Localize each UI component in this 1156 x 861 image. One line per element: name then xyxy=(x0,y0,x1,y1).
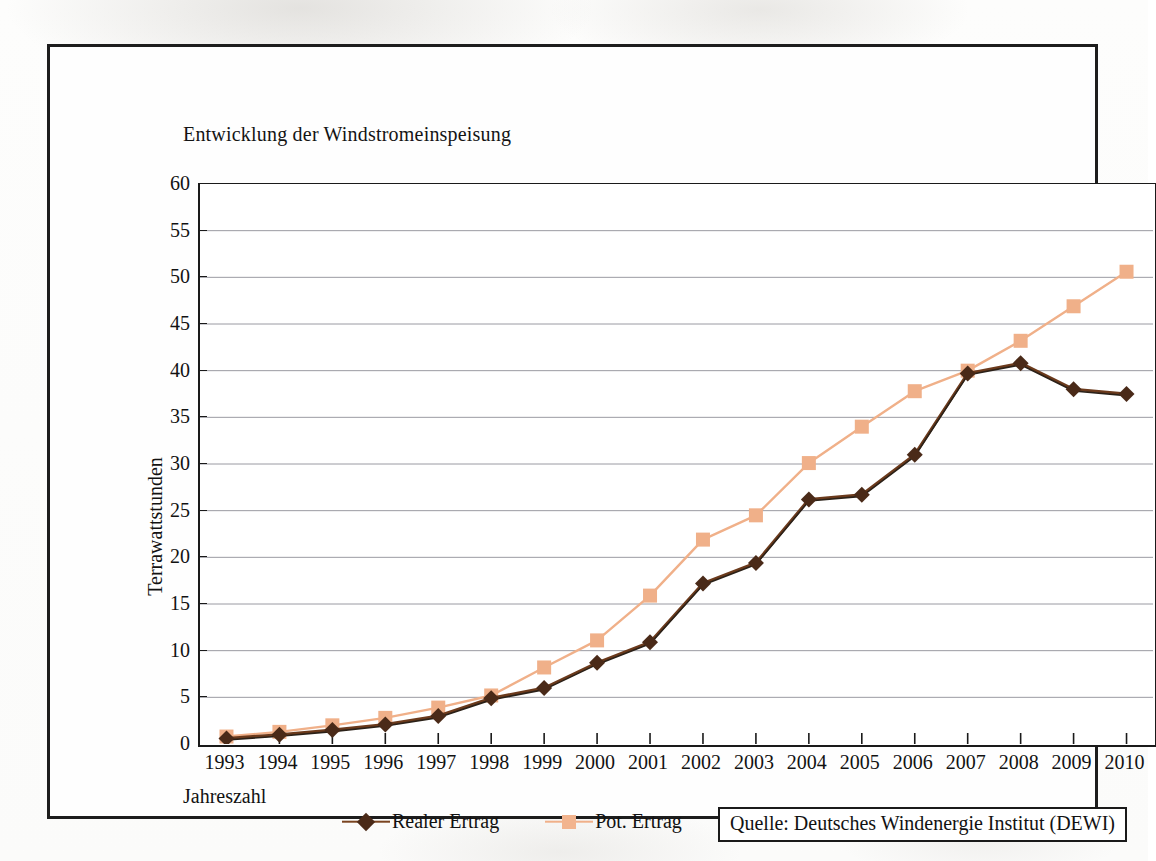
y-tick-mark xyxy=(198,510,207,511)
y-tick-label: 30 xyxy=(170,452,190,475)
y-tick-mark xyxy=(198,370,207,371)
x-tick-label: 1995 xyxy=(310,751,350,774)
x-tick-label: 1996 xyxy=(363,751,403,774)
y-axis-title: Terrawattstunden xyxy=(144,417,167,637)
x-axis-tick-labels: 1993199419951996199719981999200020012002… xyxy=(198,751,1156,779)
y-tick-mark xyxy=(198,696,207,697)
legend-label-pot-ertrag: Pot. Ertrag xyxy=(595,810,682,833)
y-tick-label: 20 xyxy=(170,545,190,568)
plot-area xyxy=(198,183,1156,747)
x-tick-label: 2000 xyxy=(575,751,615,774)
chart-legend: Realer Ertrag Pot. Ertrag xyxy=(342,810,682,833)
figure-frame: Entwicklung der Windstromeinspeisung 051… xyxy=(47,44,1098,819)
x-tick-label: 1997 xyxy=(416,751,456,774)
y-tick-label: 50 xyxy=(170,265,190,288)
y-tick-label: 10 xyxy=(170,638,190,661)
x-tick-label: 1999 xyxy=(522,751,562,774)
x-tick-label: 2008 xyxy=(999,751,1039,774)
legend-item-pot-ertrag[interactable]: Pot. Ertrag xyxy=(545,810,682,833)
x-tick-label: 2009 xyxy=(1052,751,1092,774)
x-tick-label: 2006 xyxy=(893,751,933,774)
x-tick-label: 2003 xyxy=(734,751,774,774)
source-note: Quelle: Deutsches Windenergie Institut (… xyxy=(718,807,1127,842)
legend-marker-diamond-icon xyxy=(342,813,390,831)
x-tick-label: 2002 xyxy=(681,751,721,774)
y-tick-mark xyxy=(198,230,207,231)
y-tick-label: 0 xyxy=(180,732,190,755)
y-tick-label: 15 xyxy=(170,592,190,615)
chart-title: Entwicklung der Windstromeinspeisung xyxy=(183,123,511,146)
x-tick-label: 1998 xyxy=(469,751,509,774)
y-tick-label: 25 xyxy=(170,498,190,521)
y-tick-mark xyxy=(198,323,207,324)
chart-canvas xyxy=(200,184,1153,744)
y-tick-label: 45 xyxy=(170,312,190,335)
legend-label-realer-ertrag: Realer Ertrag xyxy=(392,810,499,833)
x-tick-label: 2010 xyxy=(1105,751,1145,774)
y-tick-label: 55 xyxy=(170,218,190,241)
legend-marker-square-icon xyxy=(545,813,593,831)
y-tick-mark xyxy=(198,276,207,277)
y-tick-label: 35 xyxy=(170,405,190,428)
y-tick-mark xyxy=(198,556,207,557)
y-tick-label: 40 xyxy=(170,358,190,381)
x-tick-label: 2007 xyxy=(946,751,986,774)
y-tick-label: 5 xyxy=(180,685,190,708)
y-tick-mark xyxy=(198,603,207,604)
x-tick-label: 1994 xyxy=(257,751,297,774)
y-tick-mark xyxy=(198,463,207,464)
y-tick-label: 60 xyxy=(170,172,190,195)
y-tick-mark xyxy=(198,650,207,651)
x-tick-label: 2004 xyxy=(787,751,827,774)
x-tick-label: 2005 xyxy=(840,751,880,774)
x-tick-label: 1993 xyxy=(204,751,244,774)
y-tick-mark xyxy=(198,416,207,417)
x-tick-label: 2001 xyxy=(628,751,668,774)
x-axis-title: Jahreszahl xyxy=(183,785,266,808)
legend-item-realer-ertrag[interactable]: Realer Ertrag xyxy=(342,810,499,833)
